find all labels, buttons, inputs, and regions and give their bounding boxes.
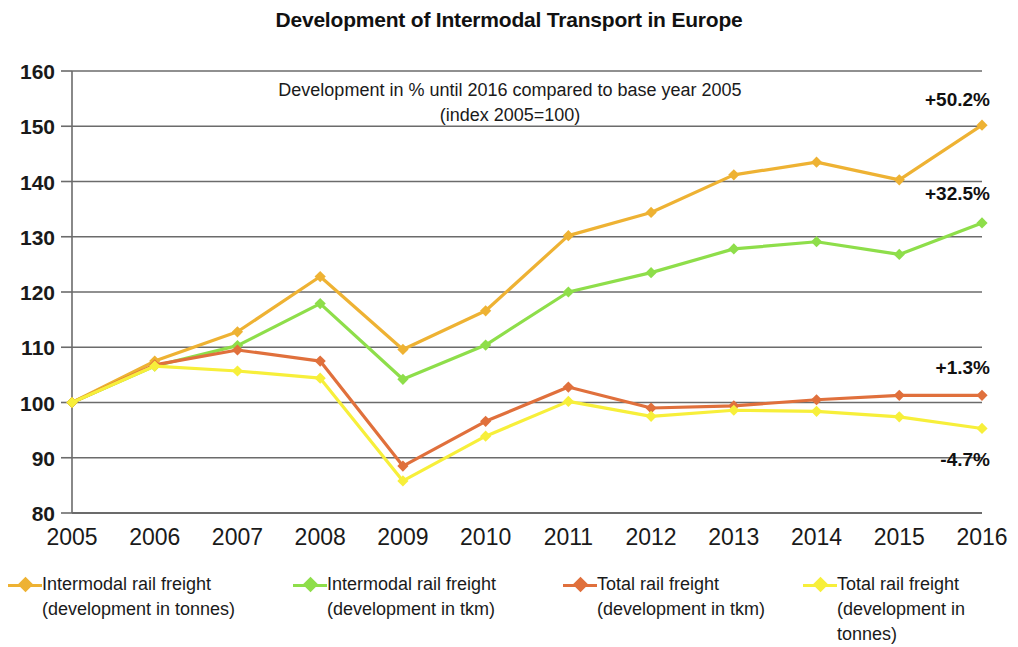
legend-diamond-icon (303, 577, 319, 593)
data-point-marker (811, 236, 822, 247)
legend-item-label: Intermodal rail freight (development in … (327, 572, 496, 622)
legend-diamond-icon (18, 577, 34, 593)
x-axis-tick-label: 2012 (626, 524, 677, 550)
y-axis-tick-label: 80 (32, 502, 55, 525)
legend-item-3[interactable]: Total rail freight (development in tonne… (803, 572, 1018, 647)
end-annotations: +50.2%+32.5%+1.3%-4.7% (925, 89, 990, 470)
data-point-marker (811, 406, 822, 417)
series-2 (66, 344, 987, 471)
chart-legend: Intermodal rail freight (development in … (0, 572, 1018, 647)
x-axis-tick-label: 2005 (46, 524, 97, 550)
data-point-marker (728, 169, 739, 180)
series-end-label: -4.7% (940, 449, 990, 470)
series-line (72, 366, 982, 481)
x-axis-tick-label: 2007 (212, 524, 263, 550)
series-line (72, 350, 982, 466)
legend-marker-icon (8, 574, 42, 596)
y-gridlines: 8090100110120130140150160 (20, 60, 982, 525)
data-point-marker (811, 157, 822, 168)
legend-marker-icon (293, 574, 327, 596)
legend-item-0[interactable]: Intermodal rail freight (development in … (0, 572, 293, 622)
x-axis-tick-label: 2015 (874, 524, 925, 550)
x-axis-tick-label: 2009 (377, 524, 428, 550)
legend-item-label: Total rail freight (development in tkm) (597, 572, 765, 622)
y-axis-tick-label: 160 (20, 60, 55, 83)
data-point-marker (976, 217, 987, 228)
x-axis-tick-label: 2006 (129, 524, 180, 550)
y-axis-tick-label: 90 (32, 447, 55, 470)
y-axis-tick-label: 130 (20, 226, 55, 249)
data-point-marker (563, 396, 574, 407)
series-3 (66, 360, 987, 486)
x-axis-labels: 2005200620072008200920102011201220132014… (46, 524, 1007, 550)
x-axis-tick-label: 2016 (956, 524, 1007, 550)
data-point-marker (894, 249, 905, 260)
data-point-marker (976, 423, 987, 434)
series-line (72, 125, 982, 402)
series-end-label: +1.3% (936, 357, 991, 378)
legend-item-label: Total rail freight (development in tonne… (837, 572, 1018, 647)
y-axis-tick-label: 140 (20, 171, 55, 194)
data-point-marker (728, 243, 739, 254)
data-point-marker (66, 397, 77, 408)
series-end-label: +50.2% (925, 89, 990, 110)
x-axis-tick-label: 2011 (544, 524, 593, 550)
series-1 (66, 217, 987, 408)
legend-marker-icon (803, 574, 837, 596)
y-axis-tick-label: 150 (20, 115, 55, 138)
x-axis-tick-label: 2010 (460, 524, 511, 550)
legend-item-label: Intermodal rail freight (development in … (42, 572, 235, 622)
legend-marker-icon (563, 574, 597, 596)
legend-item-2[interactable]: Total rail freight (development in tkm) (563, 572, 803, 622)
series-0 (66, 120, 987, 409)
x-axis-tick-label: 2013 (708, 524, 759, 550)
legend-diamond-icon (573, 577, 589, 593)
y-axis-tick-label: 100 (20, 392, 55, 415)
data-point-marker (645, 267, 656, 278)
data-point-marker (645, 411, 656, 422)
data-point-marker (894, 390, 905, 401)
series-line (72, 223, 982, 403)
data-point-marker (563, 381, 574, 392)
plot-area: 8090100110120130140150160200520062007200… (0, 0, 1018, 570)
data-point-marker (894, 411, 905, 422)
data-point-marker (976, 390, 987, 401)
data-point-marker (232, 365, 243, 376)
y-axis-tick-label: 110 (21, 336, 55, 359)
series-end-label: +32.5% (925, 183, 990, 204)
legend-diamond-icon (813, 577, 829, 593)
x-axis-tick-label: 2008 (295, 524, 346, 550)
data-point-marker (645, 207, 656, 218)
legend-item-1[interactable]: Intermodal rail freight (development in … (293, 572, 563, 622)
data-point-marker (811, 394, 822, 405)
y-axis-tick-label: 120 (20, 281, 55, 304)
x-axis-tick-label: 2014 (791, 524, 842, 550)
